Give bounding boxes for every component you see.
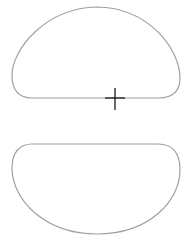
crosshair-cursor-icon bbox=[105, 88, 125, 110]
upper-dome-shape[interactable] bbox=[12, 7, 180, 98]
lower-bowl-shape[interactable] bbox=[12, 144, 180, 234]
drawing-canvas[interactable] bbox=[0, 0, 190, 249]
